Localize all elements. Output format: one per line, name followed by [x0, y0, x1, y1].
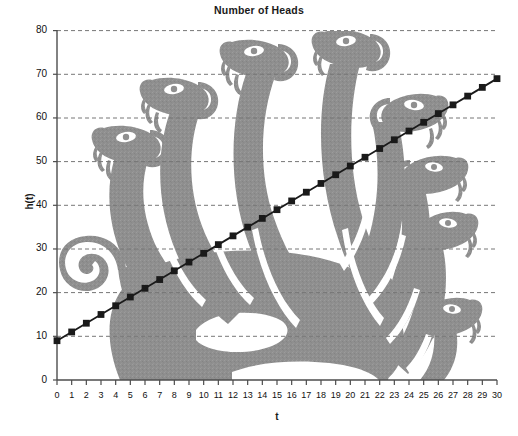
y-axis-tick-label: 60 — [23, 111, 47, 122]
y-axis-tick-label: 50 — [23, 155, 47, 166]
data-point-marker — [303, 189, 310, 196]
data-point-marker — [479, 84, 486, 91]
y-axis-tick-label: 70 — [23, 68, 47, 79]
data-point-marker — [420, 119, 427, 126]
data-point-marker — [347, 163, 354, 170]
data-point-marker — [259, 215, 266, 222]
data-point-marker — [332, 171, 339, 178]
x-axis-ticks — [57, 380, 497, 385]
data-point-marker — [127, 294, 134, 301]
data-point-marker — [318, 180, 325, 187]
data-point-marker — [230, 232, 237, 239]
data-point-marker — [450, 101, 457, 108]
data-point-marker — [142, 285, 149, 292]
data-point-marker — [406, 128, 413, 135]
y-axis-tick-label: 10 — [23, 330, 47, 341]
data-point-marker — [391, 136, 398, 143]
data-point-marker — [83, 320, 90, 327]
y-axis-tick-label: 0 — [23, 374, 47, 385]
data-point-marker — [288, 198, 295, 205]
y-axis-tick-label: 80 — [23, 24, 47, 35]
data-point-marker — [244, 224, 251, 231]
data-point-marker — [274, 206, 281, 213]
data-point-marker — [98, 311, 105, 318]
data-point-marker — [215, 241, 222, 248]
plot-area — [0, 0, 518, 436]
data-point-marker — [435, 110, 442, 117]
x-axis-tick-label: 30 — [488, 390, 506, 400]
hydra-silhouette-image — [59, 30, 482, 382]
data-point-marker — [171, 267, 178, 274]
data-point-marker — [200, 250, 207, 257]
data-point-marker — [494, 75, 501, 82]
data-point-marker — [376, 145, 383, 152]
data-point-marker — [54, 337, 61, 344]
y-axis-tick-label: 30 — [23, 242, 47, 253]
chart-figure: Number of Heads h(t) t — [0, 0, 518, 436]
data-point-marker — [186, 259, 193, 266]
data-point-marker — [362, 154, 369, 161]
data-point-marker — [156, 276, 163, 283]
y-axis-tick-label: 20 — [23, 286, 47, 297]
y-axis-tick-label: 40 — [23, 199, 47, 210]
data-point-marker — [112, 302, 119, 309]
data-point-marker — [464, 93, 471, 100]
data-point-marker — [68, 329, 75, 336]
